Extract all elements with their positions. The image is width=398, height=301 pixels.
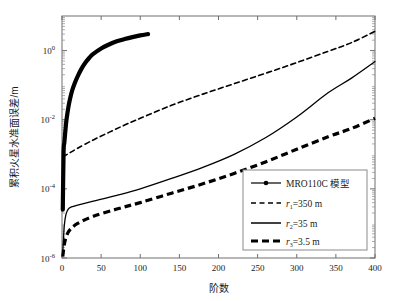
- figure-background: [0, 0, 398, 301]
- x-tick-label: 350: [329, 263, 343, 273]
- x-tick-label: 50: [97, 263, 107, 273]
- x-tick-label: 300: [290, 263, 304, 273]
- x-tick-label: 400: [368, 263, 382, 273]
- chart-canvas: 050100150200250300350400 10010-210-410-6…: [0, 0, 398, 301]
- legend-label-1: MRO110C 模型: [286, 178, 350, 189]
- x-tick-label: 0: [60, 263, 65, 273]
- x-tick-label: 100: [134, 263, 148, 273]
- legend-marker-mro110c: [264, 181, 269, 186]
- x-tick-label: 250: [251, 263, 265, 273]
- chart-figure: 050100150200250300350400 10010-210-410-6…: [0, 0, 398, 301]
- x-tick-label: 150: [173, 263, 187, 273]
- chart-legend: MRO110C 模型r1=350 mr2=35 mr3=3.5 m: [243, 170, 367, 250]
- y-axis-title: 累积火星水准面误差/m: [8, 86, 20, 187]
- x-tick-label: 200: [212, 263, 226, 273]
- x-axis-title: 阶数: [209, 282, 229, 294]
